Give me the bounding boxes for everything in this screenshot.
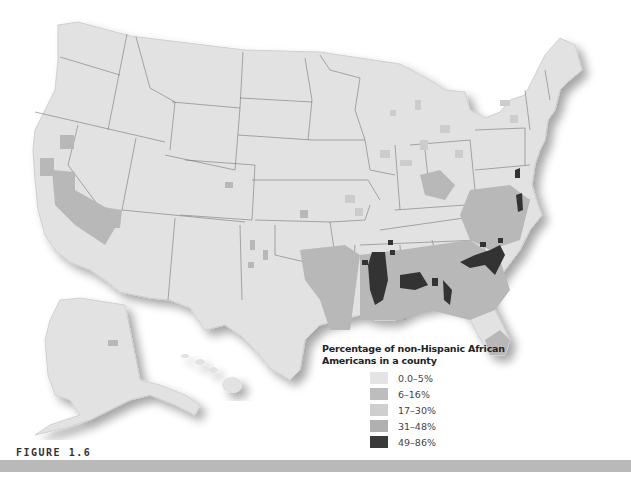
- legend-label: 0.0–5%: [398, 373, 433, 384]
- alaska: [35, 298, 200, 435]
- legend-list: 0.0–5% 6–16% 17–30% 31–48% 49–86%: [370, 370, 522, 450]
- legend-item: 49–86%: [370, 434, 522, 450]
- legend-label: 17–30%: [398, 405, 436, 416]
- legend-swatch: [370, 372, 388, 384]
- legend-swatch: [370, 420, 388, 432]
- legend-label: 6–16%: [398, 389, 430, 400]
- map-legend: Percentage of non-Hispanic African Ameri…: [322, 343, 522, 450]
- us-county-choropleth-map: [0, 0, 631, 440]
- legend-item: 31–48%: [370, 418, 522, 434]
- legend-title-line2: Americans in a county: [322, 355, 522, 367]
- hawaii: [181, 354, 242, 393]
- legend-label: 49–86%: [398, 437, 436, 448]
- legend-item: 0.0–5%: [370, 370, 522, 386]
- legend-item: 6–16%: [370, 386, 522, 402]
- legend-swatch: [370, 404, 388, 416]
- figure-label: FIGURE 1.6: [16, 447, 91, 458]
- figure-bar-divider: [0, 460, 631, 472]
- legend-swatch: [370, 388, 388, 400]
- legend-label: 31–48%: [398, 421, 436, 432]
- legend-swatch: [370, 436, 388, 448]
- legend-title-line1: Percentage of non-Hispanic African: [322, 343, 522, 355]
- legend-item: 17–30%: [370, 402, 522, 418]
